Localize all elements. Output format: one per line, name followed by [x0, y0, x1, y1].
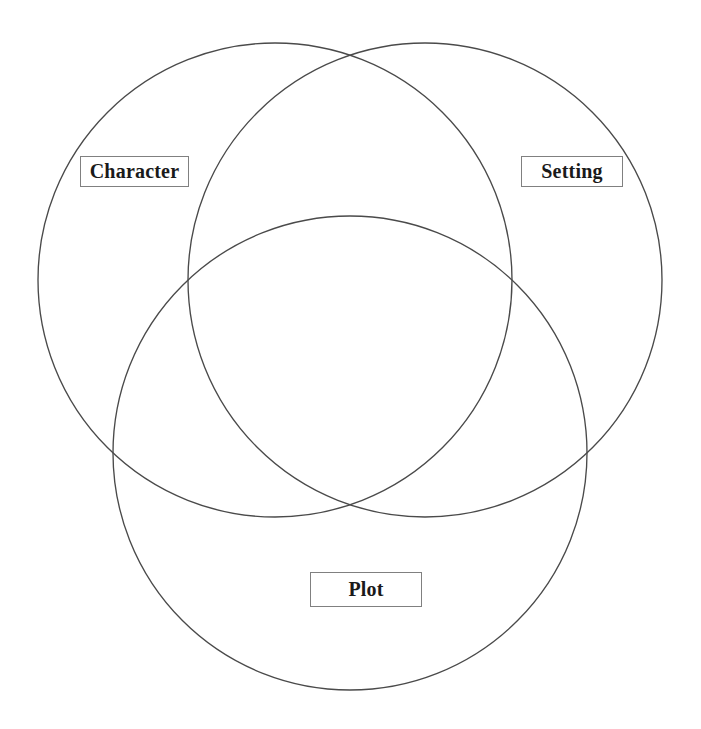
venn-circle-setting[interactable] [188, 43, 662, 517]
venn-circle-character[interactable] [38, 43, 512, 517]
venn-label-character-text: Character [90, 160, 180, 183]
venn-label-setting[interactable]: Setting [521, 156, 623, 187]
venn-label-setting-text: Setting [541, 160, 602, 183]
venn-circles-group [0, 0, 701, 729]
venn-diagram-canvas: Character Setting Plot [0, 0, 701, 729]
venn-label-character[interactable]: Character [80, 156, 189, 187]
venn-circle-plot[interactable] [113, 216, 587, 690]
venn-label-plot-text: Plot [348, 578, 383, 601]
venn-label-plot[interactable]: Plot [310, 572, 422, 607]
